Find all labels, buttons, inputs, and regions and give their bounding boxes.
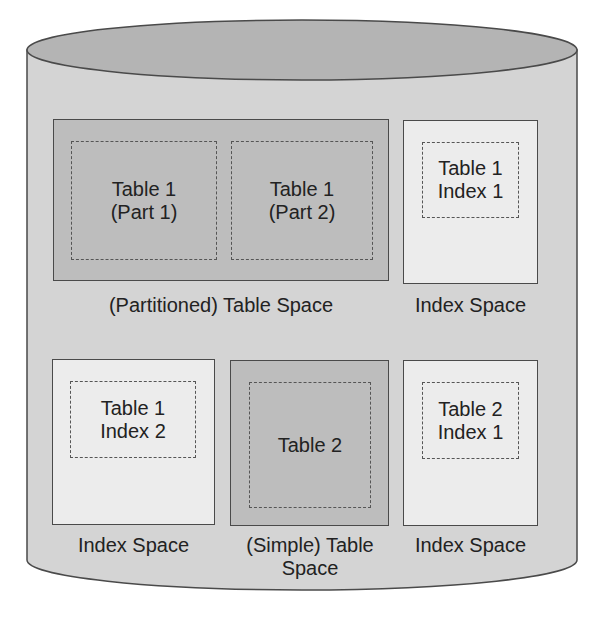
index-space-3-box: Table 2 Index 1 [403,360,538,526]
simple-table-space-caption: (Simple) Table Space [222,534,398,580]
index-space-2-caption: Index Space [52,534,215,557]
table2-label: Table 2 [278,434,343,457]
table1-part2: Table 1 (Part 2) [231,141,373,260]
table1-index1-label: Table 1 Index 1 [438,157,504,203]
index-space-2-box: Table 1 Index 2 [52,359,215,525]
table2-index1-label: Table 2 Index 1 [438,398,504,444]
table1-index1: Table 1 Index 1 [422,142,519,218]
table1-index2: Table 1 Index 2 [70,381,196,458]
simple-table-space-box: Table 2 [230,360,389,526]
table2-index1: Table 2 Index 1 [422,382,519,459]
table1-part1-label: Table 1 (Part 1) [111,178,178,224]
table1-part1: Table 1 (Part 1) [71,141,217,260]
index-space-1-caption: Index Space [403,294,538,317]
partitioned-table-space-box: Table 1 (Part 1) Table 1 (Part 2) [53,119,389,281]
table1-part2-label: Table 1 (Part 2) [269,178,336,224]
partitioned-table-space-caption: (Partitioned) Table Space [53,294,389,317]
table1-index2-label: Table 1 Index 2 [100,397,166,443]
table2: Table 2 [249,382,371,508]
cylinder-top [27,20,577,80]
index-space-3-caption: Index Space [403,534,538,557]
index-space-1-box: Table 1 Index 1 [403,120,538,284]
